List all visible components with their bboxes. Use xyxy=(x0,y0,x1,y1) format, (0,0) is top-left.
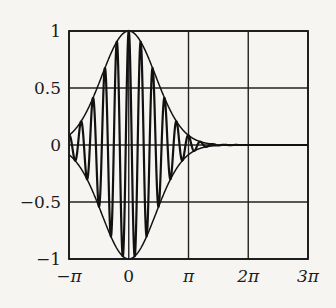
y-tick-label: 1 xyxy=(50,21,61,41)
chart: 10.50−0.5−1 −π0π2π3π xyxy=(0,0,336,308)
y-tick-label: 0.5 xyxy=(34,78,61,98)
x-tick-label: 3π xyxy=(297,266,320,286)
x-axis-tick-labels: −π0π2π3π xyxy=(56,266,320,286)
y-tick-label: 0 xyxy=(50,135,61,155)
y-axis-tick-labels: 10.50−0.5−1 xyxy=(20,21,61,269)
x-tick-label: −π xyxy=(56,266,82,286)
x-tick-label: π xyxy=(182,266,195,286)
y-tick-label: −0.5 xyxy=(20,192,61,212)
x-tick-label: 0 xyxy=(123,266,134,286)
x-tick-label: 2π xyxy=(236,266,260,286)
